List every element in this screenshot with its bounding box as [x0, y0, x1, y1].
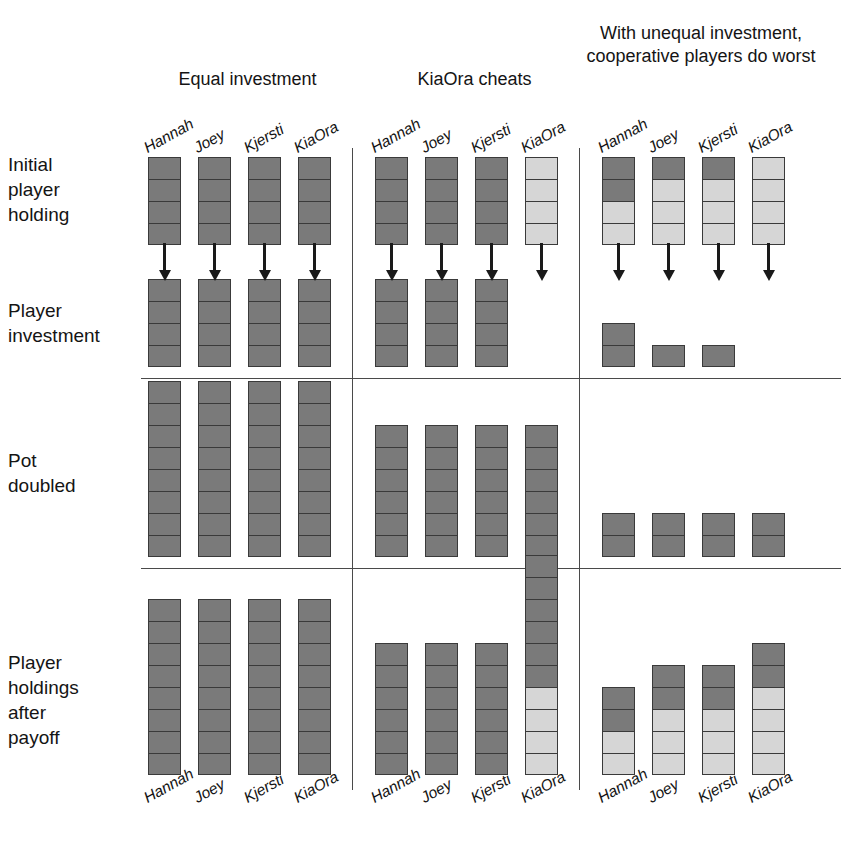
player-name-top-kiaora-cheats-kiaora: KiaOra — [518, 118, 569, 157]
light-token-cell — [525, 179, 558, 201]
dark-token-cell — [148, 201, 181, 223]
dark-token-cell — [198, 687, 231, 709]
dark-token-cell — [375, 687, 408, 709]
dark-token-cell — [298, 535, 331, 557]
dark-token-cell — [475, 447, 508, 469]
dark-token-cell — [198, 323, 231, 345]
dark-token-cell — [652, 687, 685, 709]
dark-token-cell — [298, 447, 331, 469]
light-token-cell — [752, 731, 785, 753]
dark-token-cell — [148, 179, 181, 201]
panel-divider-vertical — [579, 148, 580, 378]
dark-token-cell — [198, 301, 231, 323]
dark-token-cell — [298, 425, 331, 447]
dark-token-cell — [475, 179, 508, 201]
dark-token-cell — [425, 425, 458, 447]
arrow-shaft — [263, 243, 266, 271]
dark-token-cell — [475, 469, 508, 491]
dark-token-cell — [248, 279, 281, 301]
dark-token-cell — [475, 643, 508, 665]
dark-token-cell — [298, 157, 331, 179]
dark-token-cell — [148, 381, 181, 403]
dark-token-cell — [425, 223, 458, 245]
dark-token-cell — [425, 279, 458, 301]
dark-token-cell — [198, 279, 231, 301]
token-stack — [148, 279, 181, 367]
dark-token-cell — [375, 157, 408, 179]
arrow-head — [436, 270, 448, 281]
dark-token-cell — [248, 535, 281, 557]
dark-token-cell — [148, 513, 181, 535]
dark-token-cell — [602, 345, 635, 367]
dark-token-cell — [425, 687, 458, 709]
arrow-head — [209, 270, 221, 281]
player-name-bottom-equal-investment-kjersti: Kjersti — [241, 770, 287, 807]
token-stack — [752, 513, 785, 557]
dark-token-cell — [198, 179, 231, 201]
token-stack — [475, 425, 508, 557]
dark-token-cell — [475, 425, 508, 447]
player-name-bottom-kiaora-cheats-kjersti: Kjersti — [468, 770, 514, 807]
downward-arrow-icon — [375, 243, 408, 281]
dark-token-cell — [298, 753, 331, 775]
dark-token-cell — [248, 687, 281, 709]
dark-token-cell — [148, 665, 181, 687]
arrow-shaft — [440, 243, 443, 271]
dark-token-cell — [425, 323, 458, 345]
dark-token-cell — [375, 513, 408, 535]
token-stack — [652, 513, 685, 557]
token-stack — [752, 157, 785, 245]
dark-token-cell — [525, 425, 558, 447]
dark-token-cell — [425, 491, 458, 513]
dark-token-cell — [148, 621, 181, 643]
dark-token-cell — [148, 535, 181, 557]
dark-token-cell — [248, 381, 281, 403]
dark-token-cell — [148, 323, 181, 345]
arrow-head — [309, 270, 321, 281]
dark-token-cell — [198, 643, 231, 665]
light-token-cell — [652, 223, 685, 245]
token-stack — [752, 643, 785, 775]
token-stack — [375, 157, 408, 245]
dark-token-cell — [298, 469, 331, 491]
dark-token-cell — [298, 599, 331, 621]
dark-token-cell — [248, 425, 281, 447]
token-stack — [702, 665, 735, 775]
dark-token-cell — [475, 535, 508, 557]
dark-token-cell — [375, 665, 408, 687]
dark-token-cell — [298, 687, 331, 709]
dark-token-cell — [198, 513, 231, 535]
dark-token-cell — [248, 201, 281, 223]
token-stack — [475, 643, 508, 775]
light-token-cell — [702, 709, 735, 731]
dark-token-cell — [198, 403, 231, 425]
token-stack — [602, 513, 635, 557]
panel-divider-vertical — [352, 378, 353, 568]
dark-token-cell — [298, 643, 331, 665]
dark-token-cell — [248, 179, 281, 201]
dark-token-cell — [375, 447, 408, 469]
dark-token-cell — [198, 599, 231, 621]
dark-token-cell — [375, 179, 408, 201]
dark-token-cell — [148, 403, 181, 425]
downward-arrow-icon — [475, 243, 508, 281]
light-token-cell — [702, 731, 735, 753]
downward-arrow-icon — [425, 243, 458, 281]
row-label-initial-player-holding: Initial player holding — [8, 152, 69, 227]
section-divider-horizontal — [141, 378, 841, 379]
dark-token-cell — [602, 535, 635, 557]
arrow-shaft — [667, 243, 670, 271]
token-stack — [425, 279, 458, 367]
row-label-pot-doubled: Pot doubled — [8, 448, 76, 498]
dark-token-cell — [702, 535, 735, 557]
token-stack — [298, 279, 331, 367]
token-stack — [248, 599, 281, 775]
dark-token-cell — [475, 709, 508, 731]
token-stack — [248, 279, 281, 367]
token-stack — [198, 279, 231, 367]
light-token-cell — [752, 709, 785, 731]
dark-token-cell — [248, 643, 281, 665]
dark-token-cell — [148, 157, 181, 179]
panel-divider-vertical — [352, 568, 353, 790]
dark-token-cell — [375, 279, 408, 301]
